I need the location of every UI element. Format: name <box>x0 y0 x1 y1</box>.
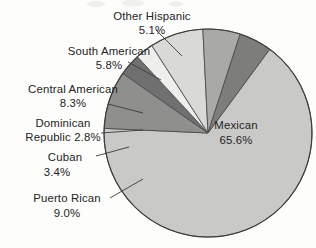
label-puerto-rican-value: 9.0% <box>54 207 81 219</box>
label-dominican-republic-value: Republic 2.8% <box>25 131 100 143</box>
label-other-hispanic-value: 5.1% <box>139 24 166 36</box>
label-central-american-name: Central American <box>28 83 118 95</box>
label-south-american-value: 5.8% <box>96 59 123 71</box>
pie-chart: Other Hispanic 5.1% South American 5.8% … <box>0 0 316 248</box>
label-mexican-value: 65.6% <box>219 134 252 146</box>
label-mexican-name: Mexican <box>214 119 257 131</box>
chart-canvas: Other Hispanic 5.1% South American 5.8% … <box>0 0 316 248</box>
label-cuban-value: 3.4% <box>44 166 71 178</box>
label-dominican-republic-name: Dominican <box>35 117 90 129</box>
label-south-american-name: South American <box>68 45 151 57</box>
label-cuban-name: Cuban <box>48 151 82 163</box>
label-other-hispanic-name: Other Hispanic <box>113 10 191 22</box>
label-central-american-value: 8.3% <box>60 97 87 109</box>
label-puerto-rican-name: Puerto Rican <box>33 192 101 204</box>
pie-slices-detailed <box>104 29 312 237</box>
scan-artifacts <box>87 0 183 7</box>
